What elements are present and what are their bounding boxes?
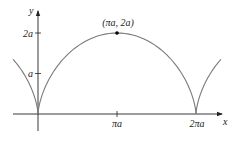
- cycloid-diagram: y x 2a a πa 2πa (πa, 2a): [0, 0, 228, 141]
- y-tick-label-2a: 2a: [23, 28, 33, 39]
- cycloid-partial-arch-right: [196, 59, 221, 114]
- cycloid-main-arch: [38, 33, 196, 114]
- peak-point: [115, 31, 119, 35]
- peak-point-label: (πa, 2a): [102, 17, 134, 29]
- y-axis-label: y: [28, 5, 34, 16]
- x-axis-label: x: [222, 116, 228, 127]
- x-tick-label-pi-a: πa: [112, 118, 122, 129]
- y-tick-label-a: a: [28, 68, 33, 79]
- cycloid-partial-arch-left: [13, 59, 38, 114]
- x-tick-label-2pi-a: 2πa: [189, 118, 204, 129]
